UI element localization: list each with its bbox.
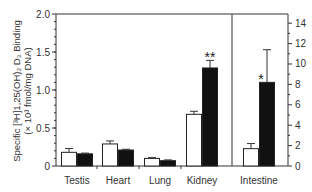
bar-control-lung bbox=[145, 158, 160, 166]
bar-treated-lung bbox=[161, 161, 176, 166]
category-label: Kidney bbox=[187, 175, 218, 186]
bar-control-heart bbox=[103, 144, 118, 166]
left-tick-label: 0.5 bbox=[36, 123, 50, 134]
right-tick-label: 0 bbox=[295, 161, 301, 172]
chart: 00.51.01.52.002468101214TestisHeartLungK… bbox=[0, 0, 312, 192]
left-tick-label: 2.0 bbox=[36, 9, 50, 20]
left-tick-label: 0 bbox=[44, 161, 50, 172]
bar-treated-heart bbox=[119, 150, 134, 166]
right-tick-label: 14 bbox=[295, 18, 307, 29]
category-label: Testis bbox=[64, 175, 90, 186]
left-tick-label: 1.0 bbox=[36, 85, 50, 96]
left-tick-label: 1.5 bbox=[36, 47, 50, 58]
category-label: Intestine bbox=[240, 175, 278, 186]
bar-treated-testis bbox=[78, 154, 93, 166]
right-tick-label: 8 bbox=[295, 79, 301, 90]
bars bbox=[62, 50, 275, 166]
right-tick-label: 10 bbox=[295, 58, 307, 69]
right-tick-label: 4 bbox=[295, 120, 301, 131]
bar-treated-kidney bbox=[203, 68, 218, 166]
significance-marker: * bbox=[258, 71, 264, 87]
right-tick-label: 12 bbox=[295, 38, 307, 49]
right-tick-label: 6 bbox=[295, 99, 301, 110]
significance-marker: ** bbox=[205, 49, 216, 65]
y-axis-label-line1: Specific [³H]1,25(OH)₂ D₃ Binding bbox=[11, 7, 22, 175]
bar-control-kidney bbox=[187, 114, 202, 166]
y-axis-label-line2: (× 10³ fmol/mg DNA) bbox=[22, 7, 33, 175]
category-label: Heart bbox=[106, 175, 131, 186]
category-label: Lung bbox=[149, 175, 171, 186]
bar-control-intestine bbox=[244, 149, 259, 166]
axes bbox=[52, 14, 292, 169]
right-tick-label: 2 bbox=[295, 140, 301, 151]
bar-treated-intestine bbox=[260, 82, 275, 166]
bar-control-testis bbox=[62, 152, 77, 166]
y-axis-label: Specific [³H]1,25(OH)₂ D₃ Binding (× 10³… bbox=[11, 7, 33, 175]
